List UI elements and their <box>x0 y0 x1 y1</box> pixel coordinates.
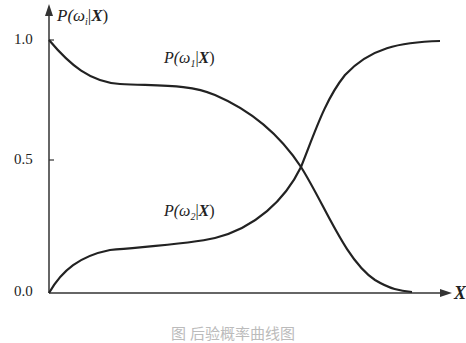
y-label-close: ) <box>103 6 109 25</box>
curve2-label-close: ) <box>209 202 214 219</box>
figure-caption: 图 后验概率曲线图 <box>0 322 466 343</box>
curve1-label-x: X <box>199 49 210 66</box>
curve1-label-p: P( <box>164 49 179 66</box>
y-label-omega: ω <box>73 6 85 25</box>
curve-p-omega2 <box>49 41 440 293</box>
curve2-label-omega: ω <box>179 202 190 219</box>
x-axis-label: X <box>454 283 466 304</box>
curve2-label: P(ω2|X) <box>164 202 215 222</box>
y-label-p: P( <box>57 6 73 25</box>
y-tick-label-0.0: 0.0 <box>14 283 33 300</box>
y-axis-label: P(ωi|X) <box>57 6 108 27</box>
curve1-label: P(ω1|X) <box>164 49 215 69</box>
y-tick-label-0.5: 0.5 <box>14 151 33 168</box>
curve2-label-x: X <box>199 202 210 219</box>
y-axis-arrow-icon <box>45 4 53 16</box>
curve1-label-close: ) <box>209 49 214 66</box>
curve-p-omega1 <box>49 40 412 292</box>
y-tick-label-1.0: 1.0 <box>14 31 33 48</box>
x-axis-arrow-icon <box>440 289 452 297</box>
curve1-label-omega: ω <box>179 49 190 66</box>
y-label-x: X <box>91 6 102 25</box>
curve2-label-p: P( <box>164 202 179 219</box>
